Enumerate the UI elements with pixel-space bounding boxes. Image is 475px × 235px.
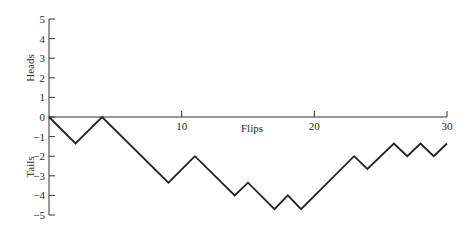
y-tick-label: 4 <box>40 33 46 45</box>
y-tick-label: 1 <box>40 91 46 103</box>
y-tick-label: −1 <box>33 131 45 143</box>
y-tick-label: −5 <box>33 209 45 221</box>
y-tick-label: 0 <box>40 111 46 123</box>
y-tick-label: 3 <box>40 52 46 64</box>
y-axis-label-tails: Tails <box>24 156 36 177</box>
y-tick-label: −4 <box>33 189 45 201</box>
y-axis-ticks: 543210−1−2−3−4−5 <box>33 13 55 221</box>
x-axis-ticks: 102030 <box>176 111 453 132</box>
x-tick-label: 10 <box>176 120 188 132</box>
y-tick-label: 5 <box>40 13 46 25</box>
y-tick-label: 2 <box>40 72 46 84</box>
x-tick-label: 20 <box>309 120 321 132</box>
x-tick-label: 30 <box>442 120 454 132</box>
random-walk-chart: 543210−1−2−3−4−5 102030 Flips Heads Tail… <box>0 0 475 235</box>
y-axis-label-heads: Heads <box>24 54 36 82</box>
x-axis-label: Flips <box>241 122 263 134</box>
